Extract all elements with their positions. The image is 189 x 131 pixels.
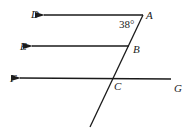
geometry-diagram: D A 38° E B F C G xyxy=(0,0,189,131)
label-E: E xyxy=(20,41,27,52)
label-C: C xyxy=(114,81,121,92)
label-F: F xyxy=(10,73,17,84)
label-B: B xyxy=(133,44,140,55)
transversal xyxy=(90,15,143,127)
label-D: D xyxy=(31,9,39,20)
angle-label: 38° xyxy=(119,19,134,30)
label-A: A xyxy=(146,10,153,21)
diagram-lines xyxy=(0,0,189,131)
line-GF xyxy=(20,78,171,79)
label-G: G xyxy=(174,83,182,94)
